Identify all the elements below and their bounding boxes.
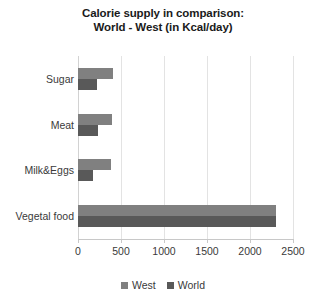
bar-group — [78, 68, 293, 90]
bar-west — [78, 68, 113, 79]
legend-swatch-icon — [167, 282, 174, 289]
x-tick-label: 500 — [101, 245, 141, 257]
plot-area — [78, 56, 293, 239]
tick-mark-500 — [121, 239, 122, 243]
bar-world — [78, 125, 98, 136]
x-tick-label: 2500 — [273, 245, 313, 257]
tick-mark-0 — [78, 239, 79, 243]
tick-mark-1000 — [164, 239, 165, 243]
chart-legend: WestWorld — [0, 279, 326, 291]
bar-world — [78, 79, 97, 90]
legend-item-west[interactable]: West — [121, 279, 156, 291]
gridline-2500 — [293, 56, 294, 239]
category-label: Meat — [51, 119, 74, 131]
category-label: Sugar — [46, 73, 74, 85]
legend-swatch-icon — [121, 282, 128, 289]
bar-group — [78, 205, 293, 227]
legend-item-world[interactable]: World — [167, 279, 205, 291]
legend-label: World — [178, 279, 205, 291]
tick-mark-2500 — [293, 239, 294, 243]
bar-west — [78, 205, 276, 216]
legend-label: West — [132, 279, 156, 291]
bar-west — [78, 114, 112, 125]
tick-mark-1500 — [207, 239, 208, 243]
bar-world — [78, 170, 93, 181]
x-tick-label: 1500 — [187, 245, 227, 257]
x-axis-line — [78, 239, 294, 240]
chart-title-line-2: World - West (in Kcal/day) — [0, 20, 326, 34]
chart-title-line-1: Calorie supply in comparison: — [0, 6, 326, 20]
x-tick-label: 2000 — [230, 245, 270, 257]
chart-title: Calorie supply in comparison: World - We… — [0, 6, 326, 34]
x-tick-label: 1000 — [144, 245, 184, 257]
category-label: Milk&Eggs — [24, 164, 74, 176]
bar-group — [78, 114, 293, 136]
tick-mark-2000 — [250, 239, 251, 243]
bar-chart: Calorie supply in comparison: World - We… — [0, 0, 326, 301]
category-label: Vegetal food — [16, 210, 74, 222]
bar-world — [78, 216, 276, 227]
bar-group — [78, 159, 293, 181]
x-tick-label: 0 — [58, 245, 98, 257]
bar-west — [78, 159, 111, 170]
